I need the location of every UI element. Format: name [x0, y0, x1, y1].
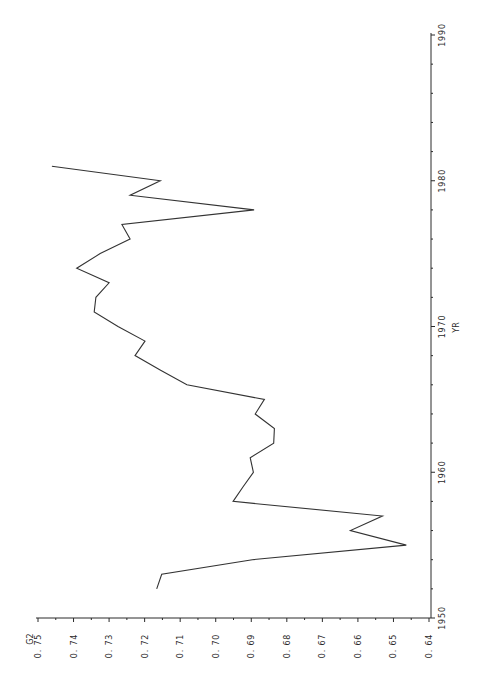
data-point-1962 [272, 442, 275, 445]
data-point-1963 [273, 427, 276, 430]
data-point-1970 [116, 325, 119, 328]
g2-tick-label: 0. 73 [105, 634, 114, 658]
g2-axis-title: G2 [26, 633, 35, 644]
data-point-1952 [155, 587, 158, 590]
g2-tick-label: 0. 66 [354, 634, 363, 658]
yr-axis-ticks [431, 35, 435, 618]
data-point-1959 [242, 485, 245, 488]
data-point-1978 [253, 208, 256, 211]
g2-tick-label: 0. 67 [318, 634, 327, 658]
data-point-1979 [129, 194, 132, 197]
data-point-1964 [254, 412, 257, 415]
g2-tick-label: 0. 69 [247, 634, 256, 658]
data-point-1953 [160, 573, 163, 576]
data-point-1965 [263, 398, 266, 401]
data-point-1974 [75, 267, 78, 270]
yr-tick-label: 1990 [438, 23, 447, 47]
data-point-1969 [143, 340, 146, 343]
data-point-1967 [159, 369, 162, 372]
g2-tick-label: 0. 64 [425, 634, 434, 658]
g2-tick-label: 0. 72 [141, 634, 150, 658]
g2-tick-label: 0. 75 [34, 634, 43, 658]
data-point-1977 [120, 223, 123, 226]
data-point-1971 [93, 310, 96, 313]
yr-axis-tick-labels: 19501960197019801990 [438, 23, 447, 630]
series-line-g2 [52, 166, 406, 589]
g2-tick-label: 0. 65 [389, 634, 398, 658]
data-point-1968 [134, 354, 137, 357]
g2-axis-tick-labels: 0. 750. 740. 730. 720. 710. 700. 690. 68… [34, 634, 434, 658]
g2-tick-label: 0. 71 [176, 634, 185, 658]
data-point-1980 [159, 179, 162, 182]
data-point-1956 [349, 529, 352, 532]
data-point-1955 [405, 544, 408, 547]
data-point-1954 [251, 558, 254, 561]
g2-tick-label: 0. 74 [70, 634, 79, 658]
yr-tick-label: 1980 [438, 169, 447, 193]
data-point-1972 [94, 296, 97, 299]
axes: 0. 750. 740. 730. 720. 710. 700. 690. 68… [26, 23, 461, 658]
data-point-1981 [50, 165, 53, 168]
data-point-1958 [232, 500, 235, 503]
yr-tick-label: 1970 [438, 315, 447, 339]
data-point-1976 [129, 238, 132, 241]
g2-axis-ticks [38, 618, 429, 622]
data-point-1961 [249, 456, 252, 459]
data-point-1973 [108, 281, 111, 284]
data-point-1966 [185, 383, 188, 386]
g2-tick-label: 0. 68 [283, 634, 292, 658]
data-points [50, 165, 407, 591]
yr-tick-label: 1960 [438, 460, 447, 484]
series-g2 [50, 165, 407, 591]
yr-axis-title: YR [452, 322, 461, 334]
g2-tick-label: 0. 70 [212, 634, 221, 658]
data-point-1960 [252, 471, 255, 474]
line-chart: 0. 750. 740. 730. 720. 710. 700. 690. 68… [0, 0, 477, 677]
data-point-1957 [381, 514, 384, 517]
yr-tick-label: 1950 [438, 606, 447, 630]
data-point-1975 [99, 252, 102, 255]
